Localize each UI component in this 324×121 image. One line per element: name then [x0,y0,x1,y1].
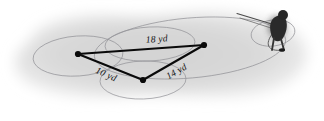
diagram-canvas: 18 yd 10 yd 14 yd [0,0,324,121]
vertex-bottom-dot [140,77,146,83]
golfer-head [278,10,288,20]
vertex-left-dot [75,51,81,57]
golf-ball [279,48,285,52]
golf-diagram-figure: 18 yd 10 yd 14 yd [0,0,324,121]
vertex-right-dot [201,42,207,48]
course-blob [15,12,306,97]
label-18-yd: 18 yd [146,33,169,45]
